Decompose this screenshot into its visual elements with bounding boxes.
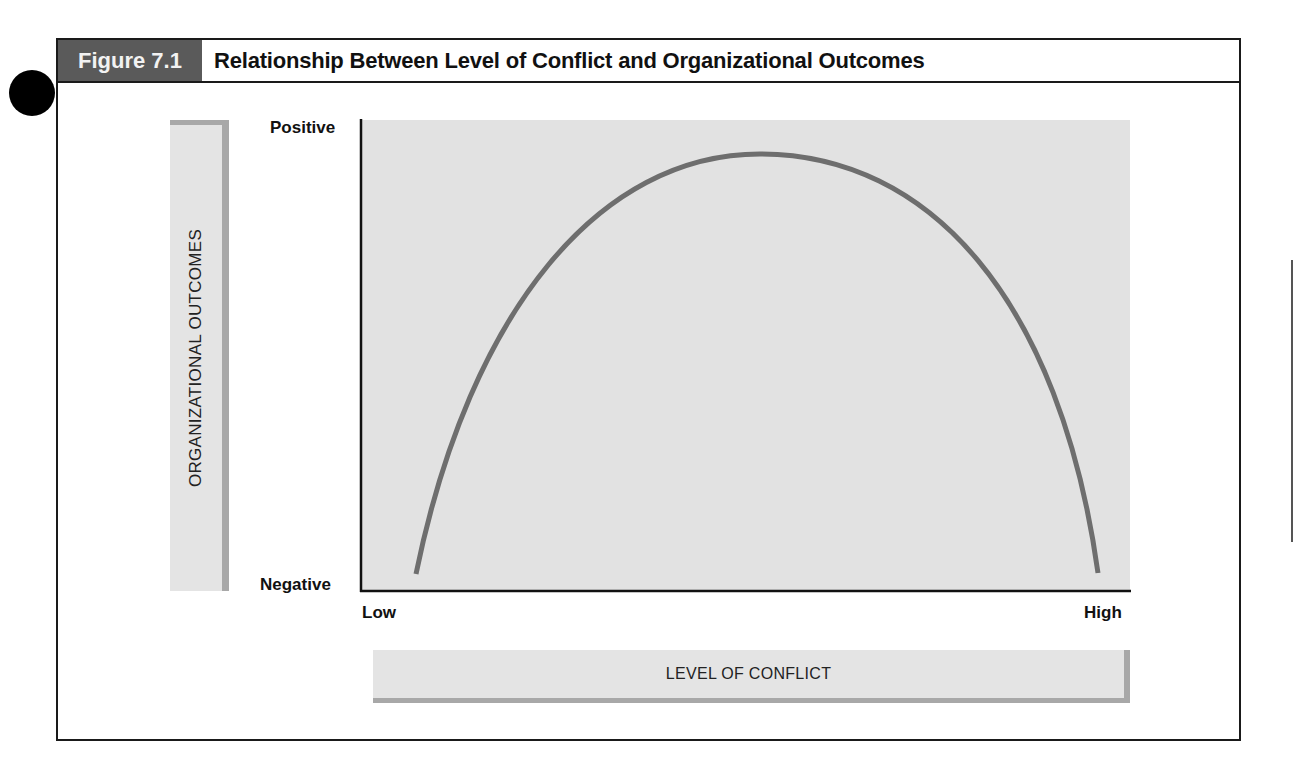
- plot-background: [361, 120, 1130, 590]
- x-axis-label: LEVEL OF CONFLICT: [666, 665, 831, 683]
- x-axis-label-box: LEVEL OF CONFLICT: [373, 650, 1130, 703]
